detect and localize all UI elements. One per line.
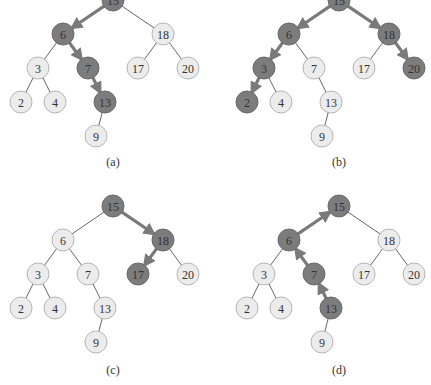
tree-node: 18 [152, 229, 174, 251]
node-label: 6 [60, 28, 66, 42]
tree-node: 6 [52, 229, 74, 251]
node-label: 20 [182, 62, 194, 76]
node-label: 9 [319, 336, 325, 350]
tree-node: 6 [52, 23, 74, 45]
node-label: 15 [333, 0, 345, 8]
tree-node: 18 [152, 23, 174, 45]
tree-panel-1: 1561837172024139(a) [10, 0, 199, 169]
tree-node: 13 [94, 297, 116, 319]
tree-node: 3 [27, 263, 49, 285]
tree-node: 9 [85, 125, 107, 147]
tree-node: 3 [27, 57, 49, 79]
path-arrow-icon [299, 5, 332, 27]
node-label: 6 [286, 28, 292, 42]
tree-node: 20 [177, 263, 199, 285]
panel-caption: (d) [332, 363, 346, 377]
node-label: 6 [60, 234, 66, 248]
tree-node: 6 [278, 23, 300, 45]
node-label: 20 [408, 62, 420, 76]
tree-node: 2 [10, 297, 32, 319]
node-label: 18 [383, 28, 395, 42]
tree-node: 15 [328, 0, 350, 11]
node-label: 18 [383, 234, 395, 248]
node-label: 20 [408, 268, 420, 282]
path-arrow-icon [271, 41, 284, 58]
node-label: 9 [93, 336, 99, 350]
node-label: 4 [52, 302, 58, 316]
tree-panel-4: 1561837172024139(d) [236, 195, 425, 377]
node-label: 13 [99, 96, 111, 110]
path-arrow-icon [394, 41, 407, 58]
node-label: 13 [99, 302, 111, 316]
node-label: 17 [132, 268, 144, 282]
tree-node: 7 [77, 263, 99, 285]
tree-node: 20 [403, 263, 425, 285]
tree-node: 17 [353, 263, 375, 285]
tree-node: 18 [378, 23, 400, 45]
tree-node: 17 [353, 57, 375, 79]
node-label: 3 [35, 62, 41, 76]
panel-caption: (b) [332, 155, 346, 169]
tree-node: 3 [253, 263, 275, 285]
path-arrow-icon [296, 213, 329, 235]
tree-node: 18 [378, 229, 400, 251]
node-label: 17 [358, 268, 370, 282]
tree-node: 3 [253, 57, 275, 79]
tree-node: 7 [303, 57, 325, 79]
tree-panel-2: 1561837172024139(b) [236, 0, 425, 169]
tree-node: 17 [127, 57, 149, 79]
tree-node: 4 [44, 91, 66, 113]
node-label: 6 [286, 234, 292, 248]
path-arrow-icon [346, 5, 379, 27]
tree-node: 9 [85, 331, 107, 353]
tree-node: 9 [311, 331, 333, 353]
path-arrow-icon [319, 285, 327, 300]
tree-node: 15 [102, 195, 124, 217]
node-label: 17 [132, 62, 144, 76]
node-label: 13 [325, 96, 337, 110]
node-label: 7 [85, 268, 91, 282]
panel-caption: (c) [106, 363, 119, 377]
bst-figure: 1561837172024139(a)1561837172024139(b)15… [0, 0, 431, 385]
node-label: 2 [244, 96, 250, 110]
tree-node: 2 [236, 297, 258, 319]
node-label: 15 [333, 200, 345, 214]
node-label: 4 [52, 96, 58, 110]
node-label: 4 [278, 302, 284, 316]
node-label: 13 [325, 302, 337, 316]
path-arrow-icon [73, 5, 106, 27]
tree-node: 4 [44, 297, 66, 319]
path-arrow-icon [92, 76, 100, 91]
tree-node: 6 [278, 229, 300, 251]
path-arrow-icon [252, 76, 260, 91]
path-arrow-icon [68, 41, 81, 58]
node-label: 20 [182, 268, 194, 282]
node-label: 3 [261, 268, 267, 282]
node-label: 18 [157, 28, 169, 42]
path-arrow-icon [145, 247, 158, 264]
tree-node: 20 [177, 57, 199, 79]
panel-caption: (a) [106, 155, 119, 169]
tree-node: 2 [10, 91, 32, 113]
path-arrow-icon [120, 211, 153, 233]
tree-node: 7 [77, 57, 99, 79]
path-arrow-icon [296, 250, 309, 267]
node-label: 2 [244, 302, 250, 316]
node-label: 3 [261, 62, 267, 76]
tree-node: 7 [303, 263, 325, 285]
tree-node: 15 [328, 195, 350, 217]
node-label: 7 [311, 268, 317, 282]
tree-node: 4 [270, 297, 292, 319]
node-label: 7 [85, 62, 91, 76]
node-label: 15 [107, 200, 119, 214]
node-label: 9 [319, 130, 325, 144]
node-label: 15 [107, 0, 119, 8]
node-label: 2 [18, 302, 24, 316]
node-label: 2 [18, 96, 24, 110]
node-label: 17 [358, 62, 370, 76]
node-label: 18 [157, 234, 169, 248]
tree-node: 17 [127, 263, 149, 285]
tree-node: 4 [270, 91, 292, 113]
node-label: 7 [311, 62, 317, 76]
tree-node: 13 [94, 91, 116, 113]
